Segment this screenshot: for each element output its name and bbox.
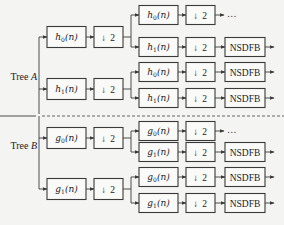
stage2-downsample-box (186, 122, 215, 141)
down-arrow-icon: ↓ (193, 199, 198, 209)
stage1-downsample-box (94, 27, 123, 48)
down-arrow-icon: ↓ (101, 33, 106, 43)
tree-label-0: Tree A (10, 71, 37, 82)
down-arrow-icon: ↓ (193, 127, 198, 137)
stage2-downsample-factor: 2 (202, 199, 207, 209)
stage1-downsample-factor: 2 (110, 33, 115, 43)
stage1-filter-label: g1(n) (55, 184, 78, 195)
stage1-filter-label: h0(n) (55, 32, 78, 43)
ellipsis-continuation: … (227, 9, 237, 19)
stage2-downsample-box (186, 38, 215, 57)
stage2-filter-label: h1(n) (147, 42, 170, 53)
stage2-filter-label: h0(n) (147, 67, 170, 78)
stage2-filter-label: g0(n) (147, 172, 170, 183)
stage2-filter-label: h0(n) (147, 10, 170, 21)
stage1-downsample-factor: 2 (110, 134, 115, 144)
stage2-downsample-box (186, 168, 215, 187)
nsdfb-label: NSDFB (230, 43, 261, 53)
down-arrow-icon: ↓ (193, 43, 198, 53)
dual-tree-filter-bank-diagram: Tree Ah0(n)↓2h0(n)↓2…h1(n)↓2NSDFBh1(n)↓2… (0, 0, 284, 225)
stage2-downsample-box (186, 63, 215, 82)
down-arrow-icon: ↓ (101, 134, 106, 144)
stage2-downsample-box (186, 194, 215, 213)
stage2-downsample-factor: 2 (202, 94, 207, 104)
down-arrow-icon: ↓ (193, 68, 198, 78)
nsdfb-label: NSDFB (230, 94, 261, 104)
nsdfb-label: NSDFB (230, 148, 261, 158)
stage2-downsample-factor: 2 (202, 148, 207, 158)
nsdfb-label: NSDFB (230, 173, 261, 183)
stage1-downsample-box (94, 79, 123, 100)
down-arrow-icon: ↓ (101, 85, 106, 95)
stage1-downsample-factor: 2 (110, 85, 115, 95)
stage2-filter-label: g1(n) (147, 198, 170, 209)
stage2-downsample-box (186, 6, 215, 25)
diagram-svg: Tree Ah0(n)↓2h0(n)↓2…h1(n)↓2NSDFBh1(n)↓2… (0, 0, 284, 225)
stage2-downsample-factor: 2 (202, 43, 207, 53)
stage2-downsample-box (186, 143, 215, 162)
down-arrow-icon: ↓ (101, 185, 106, 195)
down-arrow-icon: ↓ (193, 173, 198, 183)
stage1-filter-label: h1(n) (55, 84, 78, 95)
stage2-filter-label: h1(n) (147, 93, 170, 104)
stage2-downsample-factor: 2 (202, 68, 207, 78)
down-arrow-icon: ↓ (193, 94, 198, 104)
stage1-downsample-factor: 2 (110, 185, 115, 195)
stage2-downsample-factor: 2 (202, 11, 207, 21)
stage2-downsample-box (186, 89, 215, 108)
stage2-filter-label: g1(n) (147, 147, 170, 158)
stage1-downsample-box (94, 128, 123, 149)
stage2-downsample-factor: 2 (202, 173, 207, 183)
stage2-downsample-factor: 2 (202, 127, 207, 137)
stage2-filter-label: g0(n) (147, 126, 170, 137)
stage1-downsample-box (94, 179, 123, 200)
down-arrow-icon: ↓ (193, 11, 198, 21)
tree-label-1: Tree B (10, 140, 37, 151)
nsdfb-label: NSDFB (230, 68, 261, 78)
nsdfb-label: NSDFB (230, 199, 261, 209)
filter-blocks: Tree Ah0(n)↓2h0(n)↓2…h1(n)↓2NSDFBh1(n)↓2… (10, 6, 265, 213)
ellipsis-continuation: … (227, 125, 237, 135)
stage1-filter-label: g0(n) (55, 133, 78, 144)
down-arrow-icon: ↓ (193, 148, 198, 158)
